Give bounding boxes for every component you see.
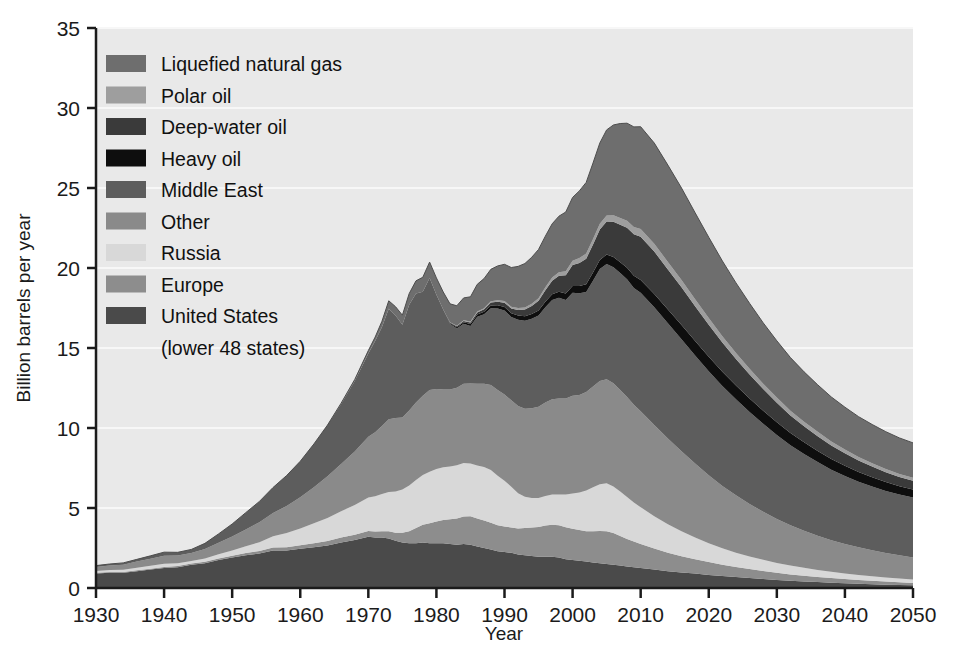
x-tick-label-1980: 1980 xyxy=(413,603,460,626)
y-tick-label-0: 0 xyxy=(68,577,80,600)
legend-swatch-4 xyxy=(106,181,146,198)
x-tick-label-2040: 2040 xyxy=(822,603,869,626)
legend-label-3: Heavy oil xyxy=(161,148,241,170)
x-tick-label-2010: 2010 xyxy=(617,603,664,626)
legend-swatch-8 xyxy=(106,307,146,324)
x-tick-label-1960: 1960 xyxy=(277,603,324,626)
y-tick-label-15: 15 xyxy=(57,337,80,360)
legend-label-5: Other xyxy=(161,211,210,233)
x-tick-label-2000: 2000 xyxy=(549,603,596,626)
x-tick-label-1930: 1930 xyxy=(73,603,120,626)
x-tick-label-2030: 2030 xyxy=(753,603,800,626)
y-tick-label-10: 10 xyxy=(57,417,80,440)
y-tick-label-20: 20 xyxy=(57,257,80,280)
legend-swatch-3 xyxy=(106,150,146,167)
legend-label-4: Middle East xyxy=(161,179,263,201)
y-tick-label-35: 35 xyxy=(57,17,80,40)
y-tick-label-25: 25 xyxy=(57,177,80,200)
x-tick-label-1970: 1970 xyxy=(345,603,392,626)
x-tick-label-2020: 2020 xyxy=(685,603,732,626)
y-tick-label-5: 5 xyxy=(68,497,80,520)
legend-swatch-0 xyxy=(106,55,146,72)
legend-label-2: Deep-water oil xyxy=(161,116,287,138)
legend-label-6: Russia xyxy=(161,242,221,264)
y-tick-label-30: 30 xyxy=(57,97,80,120)
legend-swatch-1 xyxy=(106,87,146,104)
y-axis-title: Billion barrels per year xyxy=(13,213,34,403)
legend-label-7: Europe xyxy=(161,274,224,296)
chart-container: 05101520253035 1930194019501960197019801… xyxy=(0,0,966,657)
stacked-area-chart: 05101520253035 1930194019501960197019801… xyxy=(0,0,966,657)
legend-label-9: (lower 48 states) xyxy=(161,337,305,359)
legend-label-1: Polar oil xyxy=(161,85,231,107)
legend-swatch-5 xyxy=(106,213,146,230)
legend-label-8: United States xyxy=(161,305,278,327)
legend-swatch-7 xyxy=(106,276,146,293)
legend-label-0: Liquefied natural gas xyxy=(161,53,342,75)
legend-swatch-2 xyxy=(106,118,146,135)
legend-swatch-6 xyxy=(106,244,146,261)
x-tick-label-2050: 2050 xyxy=(890,603,937,626)
x-axis-title: Year xyxy=(485,623,524,644)
x-tick-label-1950: 1950 xyxy=(209,603,256,626)
x-tick-label-1940: 1940 xyxy=(141,603,188,626)
